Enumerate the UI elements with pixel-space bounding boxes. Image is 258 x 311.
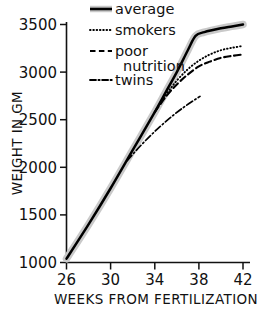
legend-label-poor: poor	[115, 43, 148, 59]
chart-figure: 3500 3000 2500 2000 1500 1000 26 30 34 3…	[0, 0, 258, 311]
legend-label-twins: twins	[115, 72, 153, 88]
y-tick-label-3000: 3000	[19, 64, 57, 82]
weight-growth-line-chart: 3500 3000 2500 2000 1500 1000 26 30 34 3…	[0, 0, 258, 311]
x-tick-label-34: 34	[145, 271, 164, 289]
x-tick-label-30: 30	[101, 271, 120, 289]
x-tick-label-38: 38	[189, 271, 208, 289]
x-axis-title: WEEKS FROM FERTILIZATION	[54, 291, 258, 307]
y-tick-label-3500: 3500	[19, 16, 57, 34]
y-tick-label-1500: 1500	[19, 206, 57, 224]
x-tick-label-42: 42	[233, 271, 252, 289]
x-tick-label-26: 26	[57, 271, 76, 289]
y-axis-title: WEIGHT IN GM	[9, 91, 25, 195]
legend-label-average: average	[115, 1, 174, 17]
y-tick-label-1000: 1000	[19, 254, 57, 272]
legend-label-smokers: smokers	[115, 22, 176, 38]
